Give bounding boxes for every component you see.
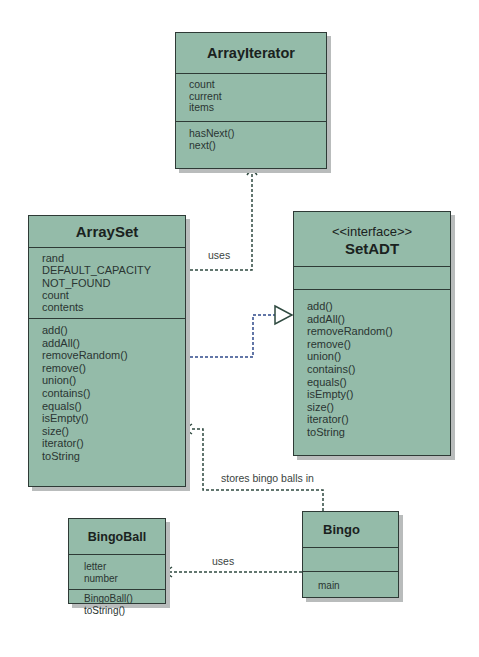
method: toString — [42, 450, 185, 463]
attribute: number — [84, 573, 165, 585]
method: contains() — [42, 387, 185, 400]
class-header: ArraySet — [29, 216, 185, 248]
realization-triangle — [275, 306, 292, 324]
attributes-section: rand DEFAULT_CAPACITY NOT_FOUND count co… — [29, 248, 185, 319]
class-header: Bingo — [303, 512, 398, 548]
attributes-section: letter number — [69, 555, 165, 590]
method: addAll() — [42, 337, 185, 350]
attributes-section — [303, 548, 398, 572]
class-array-set: ArraySet rand DEFAULT_CAPACITY NOT_FOUND… — [28, 215, 186, 487]
method: toString — [307, 426, 450, 439]
uses-ball-label: uses — [212, 555, 234, 567]
attribute: contents — [42, 301, 185, 313]
class-header: ArrayIterator — [176, 33, 326, 74]
class-array-iterator: ArrayIterator count current items hasNex… — [175, 32, 327, 169]
stores-bingo-balls-label: stores bingo balls in — [221, 472, 314, 484]
method: main — [318, 580, 398, 592]
attribute: DEFAULT_CAPACITY — [42, 264, 185, 276]
method: add() — [42, 324, 185, 337]
method: iterator() — [307, 413, 450, 426]
methods-section: hasNext() next() — [176, 122, 326, 151]
method: size() — [42, 425, 185, 438]
method: remove() — [307, 338, 450, 351]
method: isEmpty() — [307, 388, 450, 401]
methods-section: add() addAll() removeRandom() remove() u… — [294, 290, 450, 439]
method: size() — [307, 401, 450, 414]
uses-iterator-label: uses — [208, 249, 230, 261]
attribute: count — [42, 289, 185, 301]
class-bingo-ball: BingoBall letter number BingoBall() toSt… — [68, 518, 166, 604]
method: remove() — [42, 362, 185, 375]
class-name: ArrayIterator — [207, 45, 295, 61]
method: next() — [189, 140, 326, 152]
method: addAll() — [307, 313, 450, 326]
attribute: items — [189, 102, 326, 114]
method: equals() — [307, 376, 450, 389]
class-name: ArraySet — [76, 223, 139, 240]
method: iterator() — [42, 437, 185, 450]
interface-set-adt: <<interface>> SetADT add() addAll() remo… — [293, 211, 451, 456]
method: toString() — [84, 605, 165, 617]
stereotype: <<interface>> — [332, 224, 412, 239]
class-name: SetADT — [345, 240, 399, 257]
method: removeRandom() — [307, 325, 450, 338]
attributes-section: count current items — [176, 74, 326, 122]
class-bingo: Bingo main — [302, 511, 399, 598]
attribute: NOT_FOUND — [42, 277, 185, 289]
attribute: count — [189, 79, 326, 91]
method: isEmpty() — [42, 412, 185, 425]
method: union() — [42, 374, 185, 387]
class-name: Bingo — [323, 522, 360, 537]
method: equals() — [42, 400, 185, 413]
attribute: letter — [84, 561, 165, 573]
method: contains() — [307, 363, 450, 376]
methods-section: add() addAll() removeRandom() remove() u… — [29, 319, 185, 463]
methods-section: main — [303, 572, 398, 592]
method: union() — [307, 350, 450, 363]
class-header: <<interface>> SetADT — [294, 212, 450, 267]
method: add() — [307, 300, 450, 313]
attributes-section — [294, 267, 450, 290]
class-name: BingoBall — [88, 530, 146, 544]
methods-section: BingoBall() toString() — [69, 590, 165, 616]
method: hasNext() — [189, 128, 326, 140]
method: BingoBall() — [84, 593, 165, 605]
realization-connector — [185, 315, 275, 357]
method: removeRandom() — [42, 349, 185, 362]
attribute: rand — [42, 252, 185, 264]
class-header: BingoBall — [69, 519, 165, 555]
